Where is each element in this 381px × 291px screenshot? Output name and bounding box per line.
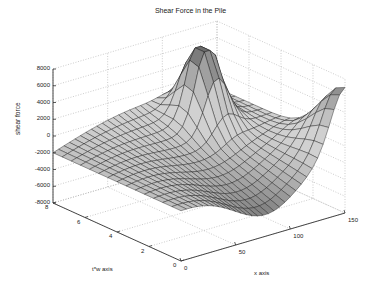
surface-plot-figure: Shear Force in the Pile shear force t*w … [0, 0, 381, 291]
z-tick-label: -6000 [35, 182, 50, 188]
z-tick-label: -2000 [35, 149, 50, 155]
y-tick-label: 2 [141, 248, 144, 254]
z-tick-label: 8000 [37, 65, 50, 71]
z-axis-label: shear force [14, 102, 21, 135]
x-tick-label: 100 [293, 233, 303, 239]
y-tick-label: 4 [109, 233, 112, 239]
chart-title: Shear Force in the Pile [0, 7, 381, 14]
y-tick-label: 8 [45, 204, 48, 210]
x-tick-label: 0 [184, 265, 187, 271]
y-tick-label: 6 [77, 219, 80, 225]
z-tick-label: 2000 [37, 115, 50, 121]
y-axis-label: t*w axis [92, 266, 113, 272]
plot-canvas [0, 0, 381, 291]
z-tick-label: 0 [47, 132, 50, 138]
z-tick-label: 4000 [37, 99, 50, 105]
x-tick-label: 50 [239, 249, 246, 255]
x-axis-label: x axis [254, 270, 269, 276]
y-tick-label: 0 [173, 262, 176, 268]
z-tick-label: -4000 [35, 166, 50, 172]
x-tick-label: 150 [348, 217, 358, 223]
z-tick-label: 6000 [37, 82, 50, 88]
